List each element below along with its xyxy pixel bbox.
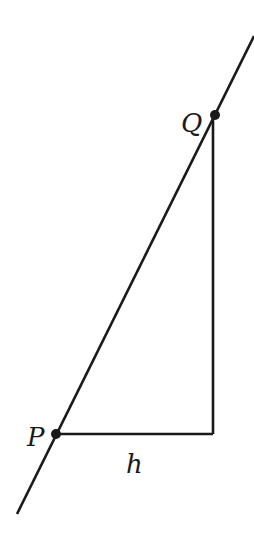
label-q: Q xyxy=(181,108,202,138)
secant-diagram: P Q h xyxy=(0,0,254,541)
point-q-dot xyxy=(210,110,220,120)
label-p: P xyxy=(26,422,45,452)
point-p-dot xyxy=(51,429,61,439)
label-h: h xyxy=(126,449,143,479)
secant-line xyxy=(17,36,254,514)
